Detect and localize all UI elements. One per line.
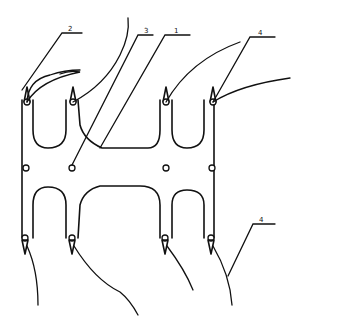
hole-right bbox=[209, 165, 215, 171]
label-4-top: 4 bbox=[258, 29, 263, 37]
leaders: 2 3 1 4 4 bbox=[22, 25, 275, 276]
label-4-bottom: 4 bbox=[259, 216, 264, 224]
label-1: 1 bbox=[174, 27, 178, 35]
holes bbox=[23, 165, 215, 171]
hole-center-left bbox=[69, 165, 75, 171]
label-3: 3 bbox=[144, 27, 148, 35]
hole-center-right bbox=[163, 165, 169, 171]
bottom-needles bbox=[22, 235, 214, 254]
top-needles bbox=[24, 87, 216, 105]
top-sutures bbox=[27, 18, 290, 102]
hole-left bbox=[23, 165, 29, 171]
bottom-sutures bbox=[27, 246, 232, 315]
label-2: 2 bbox=[68, 25, 72, 33]
patent-drawing: 2 3 1 4 4 bbox=[0, 0, 344, 336]
plate-outline bbox=[22, 100, 214, 238]
